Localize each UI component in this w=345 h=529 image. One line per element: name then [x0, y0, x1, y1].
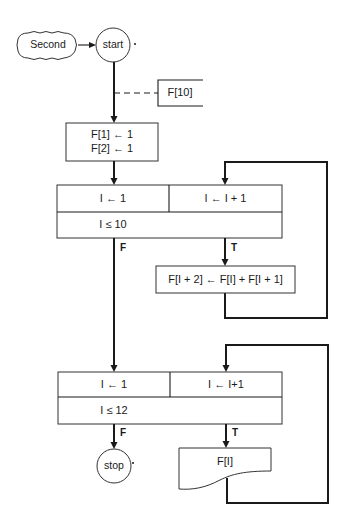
start-marker-dot — [134, 43, 136, 45]
arrowhead-icon — [222, 259, 229, 266]
loop2-true-flag: T — [232, 427, 238, 438]
arrowhead-icon — [89, 42, 96, 48]
flowchart-canvas — [0, 0, 345, 529]
arrowhead-icon — [223, 441, 230, 448]
loop1-body-label: F[I + 2] ← F[I] + F[I + 1] — [156, 273, 295, 286]
stop-terminal-label: stop — [97, 459, 131, 472]
loop1-condition-label: I ≤ 10 — [57, 218, 169, 231]
arrowhead-icon — [111, 116, 118, 123]
loop1-true-flag: T — [231, 242, 237, 253]
start-terminal-label: start — [96, 38, 130, 51]
init-line1: F[1] ← 1 — [66, 128, 158, 141]
arrowhead-icon — [111, 442, 118, 449]
arrowhead-icon — [222, 178, 229, 185]
loop2-increment-label: I ← I+1 — [170, 378, 282, 391]
loop2-false-flag: F — [120, 427, 126, 438]
loop2-condition-label: I ≤ 12 — [58, 404, 170, 417]
annotation-label: F[10] — [160, 86, 200, 99]
arrowhead-icon — [111, 365, 118, 372]
stop-marker-dot — [132, 462, 134, 464]
loop1-init-label: I ← 1 — [57, 192, 169, 205]
connector-second-label: Second — [18, 38, 78, 51]
loop1-increment-label: I ← I + 1 — [169, 192, 282, 205]
init-line2: F[2] ← 1 — [66, 142, 158, 155]
arrowhead-icon — [111, 178, 118, 185]
loop2-init-label: I ← 1 — [58, 378, 170, 391]
arrowhead-icon — [223, 365, 230, 372]
loop1-false-flag: F — [120, 242, 126, 253]
output-document-label: F[I] — [179, 455, 271, 468]
